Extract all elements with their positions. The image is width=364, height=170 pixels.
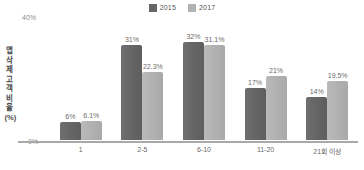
- x-axis-tick-label: 21회 이상: [298, 146, 356, 156]
- bar-value-label: 14%: [310, 88, 324, 96]
- bar-group: 32%31.1%: [175, 18, 233, 140]
- bar-wrapper: 19.5%: [327, 18, 348, 140]
- bar-value-label: 21%: [269, 67, 283, 75]
- bar-2015-2-5[interactable]: [121, 45, 142, 140]
- bar-2017-1[interactable]: [81, 121, 102, 140]
- legend-swatch-2015: [149, 4, 157, 12]
- chart-legend: 2015 2017: [0, 2, 364, 14]
- x-axis-tick-label: 2-5: [113, 146, 171, 156]
- bar-wrapper: 31.1%: [204, 18, 225, 140]
- legend-item-2017[interactable]: 2017: [188, 4, 215, 12]
- x-axis-tick-label: 6-10: [175, 146, 233, 156]
- bar-group: 14%19.5%: [298, 18, 356, 140]
- bar-2017-21회 이상[interactable]: [327, 81, 348, 140]
- legend-label-2015: 2015: [160, 4, 176, 12]
- bar-value-label: 6.1%: [83, 112, 99, 120]
- bar-value-label: 6%: [65, 113, 75, 121]
- bar-wrapper: 32%: [183, 18, 204, 140]
- bar-2015-1[interactable]: [60, 122, 81, 140]
- bar-2015-11-20[interactable]: [245, 88, 266, 140]
- x-axis-tick-label: 11-20: [237, 146, 295, 156]
- bar-value-label: 17%: [248, 79, 262, 87]
- legend-item-2015[interactable]: 2015: [149, 4, 176, 12]
- bar-value-label: 32%: [186, 33, 200, 41]
- bar-wrapper: 6%: [60, 18, 81, 140]
- bar-value-label: 31%: [125, 36, 139, 44]
- legend-label-2017: 2017: [199, 4, 215, 12]
- bar-group: 17%21%: [237, 18, 295, 140]
- bar-2015-6-10[interactable]: [183, 42, 204, 140]
- bar-wrapper: 21%: [266, 18, 287, 140]
- y-tick-40: 40%: [22, 14, 36, 21]
- bar-wrapper: 22.3%: [142, 18, 163, 140]
- bar-wrapper: 31%: [121, 18, 142, 140]
- y-axis-title: 앱 삭제 고객 비율(%): [1, 30, 17, 138]
- bar-groups: 6%6.1%31%22.3%32%31.1%17%21%14%19.5%: [50, 18, 358, 140]
- bar-2017-6-10[interactable]: [204, 45, 225, 140]
- bar-value-label: 22.3%: [143, 63, 163, 71]
- bar-wrapper: 6.1%: [81, 18, 102, 140]
- y-axis-title-text: 앱 삭제 고객 비율(%): [5, 46, 14, 122]
- x-axis-tick-label: 1: [52, 146, 110, 156]
- bar-2015-21회 이상[interactable]: [306, 97, 327, 140]
- bar-2017-2-5[interactable]: [142, 72, 163, 140]
- bar-value-label: 31.1%: [205, 36, 225, 44]
- bar-wrapper: 17%: [245, 18, 266, 140]
- x-axis-line: [18, 141, 358, 143]
- plot-area: 40% 0% 6%6.1%31%22.3%32%31.1%17%21%14%19…: [50, 18, 358, 140]
- x-axis-labels: 12-56-1011-2021회 이상: [50, 146, 358, 156]
- bar-group: 31%22.3%: [113, 18, 171, 140]
- bar-group: 6%6.1%: [52, 18, 110, 140]
- legend-swatch-2017: [188, 4, 196, 12]
- bar-2017-11-20[interactable]: [266, 76, 287, 140]
- bar-wrapper: 14%: [306, 18, 327, 140]
- bar-value-label: 19.5%: [328, 72, 348, 80]
- bar-chart: 2015 2017 앱 삭제 고객 비율(%) 40% 0% 6%6.1%31%…: [0, 0, 364, 170]
